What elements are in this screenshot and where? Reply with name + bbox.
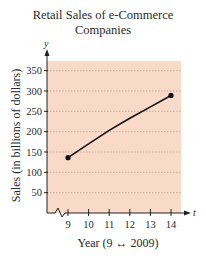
y-tick-label: 300 <box>26 86 42 97</box>
y-axis-variable: y <box>43 38 49 49</box>
x-tick-label: 11 <box>104 219 114 230</box>
chart-canvas: 50100150200250300350yt91011121314 <box>0 0 206 259</box>
x-axis-variable: t <box>193 207 196 218</box>
y-tick-label: 150 <box>26 147 42 158</box>
y-tick-label: 200 <box>26 126 42 137</box>
x-tick-label: 10 <box>83 219 94 230</box>
y-axis-arrow-icon <box>45 49 50 56</box>
x-tick-label: 12 <box>125 219 136 230</box>
x-tick-label: 13 <box>145 219 156 230</box>
y-tick-label: 50 <box>32 187 43 198</box>
y-tick-label: 350 <box>26 65 42 76</box>
x-tick-label: 14 <box>166 219 177 230</box>
x-axis-arrow-icon <box>184 211 191 216</box>
start-point-marker <box>65 155 70 160</box>
y-tick-label: 100 <box>26 167 42 178</box>
plot-background <box>47 61 181 213</box>
x-tick-label: 9 <box>65 219 70 230</box>
end-point-marker <box>168 93 173 98</box>
y-tick-label: 250 <box>26 106 42 117</box>
